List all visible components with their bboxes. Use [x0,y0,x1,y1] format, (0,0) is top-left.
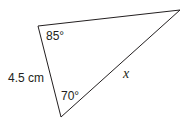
triangle-diagram: 85° 70° 4.5 cm x [0,0,181,128]
angle-label-top-left: 85° [46,29,64,43]
angle-label-bottom: 70° [61,89,79,103]
side-label-left: 4.5 cm [8,71,44,85]
triangle [38,10,180,117]
side-label-hypotenuse: x [122,66,130,81]
